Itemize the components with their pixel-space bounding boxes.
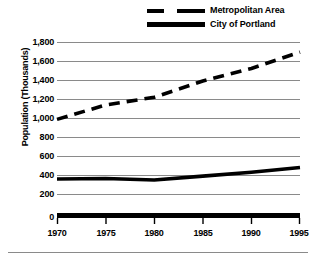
x-tick-label-1970: 1970 [37, 228, 77, 238]
footer-divider [8, 252, 308, 253]
series-line-metropolitan-area [57, 52, 300, 119]
x-tick-label-1990: 1990 [231, 228, 271, 238]
population-line-chart: Metropolitan Area City of Portland Popul… [0, 0, 316, 263]
x-axis-ticks [58, 218, 300, 224]
x-tick-label-1985: 1985 [183, 228, 223, 238]
x-tick-label-1975: 1975 [86, 228, 126, 238]
plot-area [0, 0, 316, 263]
series-line-city-of-portland [57, 167, 300, 179]
x-tick-label-1995: 1995 [279, 228, 316, 238]
x-tick-label-1980: 1980 [134, 228, 174, 238]
